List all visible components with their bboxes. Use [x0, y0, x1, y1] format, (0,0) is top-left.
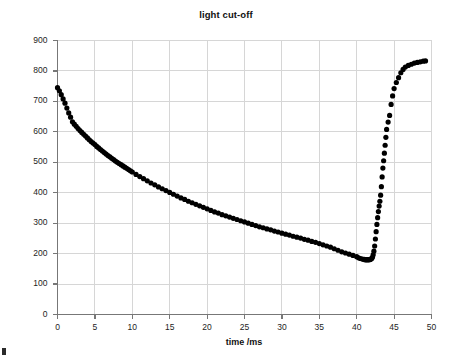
data-series-points: [55, 58, 428, 262]
data-point: [68, 115, 73, 120]
data-point: [377, 204, 382, 209]
x-tick-label: 20: [192, 322, 222, 332]
x-tick-label: 30: [267, 322, 297, 332]
y-tick-label: 300: [14, 217, 48, 227]
data-point: [383, 135, 388, 140]
data-point: [378, 193, 383, 198]
y-tick-label: 500: [14, 156, 48, 166]
data-point: [375, 215, 380, 220]
plot-area: [0, 0, 452, 358]
data-point: [383, 143, 388, 148]
data-point: [390, 93, 395, 98]
x-tick-label: 10: [117, 322, 147, 332]
y-tick-label: 700: [14, 95, 48, 105]
x-tick-label: 0: [43, 322, 73, 332]
grid-lines: [58, 41, 432, 315]
data-point: [396, 75, 401, 80]
data-point: [392, 86, 397, 91]
data-point: [376, 209, 381, 214]
y-tick-label: 400: [14, 187, 48, 197]
data-point: [380, 174, 385, 179]
data-point: [374, 222, 379, 227]
corner-artifact: [2, 348, 6, 355]
y-tick-label: 900: [14, 35, 48, 45]
chart-figure: light cut-off light level time /ms 01002…: [0, 0, 452, 358]
x-tick-label: 40: [342, 322, 372, 332]
x-tick-label: 25: [230, 322, 260, 332]
data-point: [423, 58, 428, 63]
x-tick-label: 50: [417, 322, 447, 332]
data-point: [371, 249, 376, 254]
y-tick-label: 200: [14, 248, 48, 258]
data-point: [394, 80, 399, 85]
data-point: [386, 119, 391, 124]
data-point: [381, 158, 386, 163]
x-tick-label: 35: [304, 322, 334, 332]
data-point: [389, 102, 394, 107]
y-tick-label: 800: [14, 65, 48, 75]
data-point: [382, 151, 387, 156]
y-tick-label: 0: [14, 309, 48, 319]
data-point: [374, 229, 379, 234]
y-tick-label: 100: [14, 278, 48, 288]
data-point: [377, 199, 382, 204]
data-point: [387, 113, 392, 118]
data-point: [372, 243, 377, 248]
x-tick-label: 45: [379, 322, 409, 332]
y-tick-label: 600: [14, 126, 48, 136]
x-tick-label: 15: [155, 322, 185, 332]
tick-marks: [53, 41, 432, 320]
data-point: [64, 105, 69, 110]
data-point: [62, 101, 67, 106]
x-tick-label: 5: [80, 322, 110, 332]
data-point: [379, 184, 384, 189]
data-point: [380, 165, 385, 170]
data-point: [373, 236, 378, 241]
data-point: [384, 127, 389, 132]
